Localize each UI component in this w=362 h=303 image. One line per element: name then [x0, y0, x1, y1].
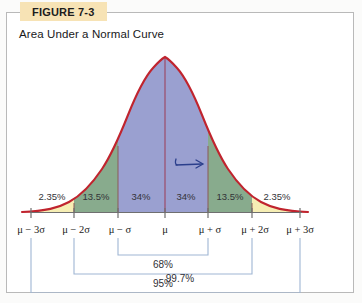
- x-tick-label-minus-1-sigma: μ − σ: [109, 224, 132, 235]
- percent-label-right-outer-tail: 2.35%: [264, 191, 291, 202]
- percent-label-left-center: 34%: [131, 191, 151, 202]
- x-tick-label-plus-2-sigma: μ + 2σ: [241, 224, 269, 235]
- figure-banner: FIGURE 7-3: [20, 2, 107, 21]
- bracket-label-one-sigma: 68%: [153, 259, 173, 270]
- x-tick-label-plus-1-sigma: μ + σ: [199, 224, 222, 235]
- x-tick-label-mu: μ: [162, 224, 168, 235]
- percent-label-right-center: 34%: [176, 191, 196, 202]
- x-tick-label-minus-3-sigma: μ − 3σ: [17, 224, 45, 235]
- figure-number-label: FIGURE 7-3: [32, 6, 95, 18]
- percent-label-left-middle: 13.5%: [83, 191, 110, 202]
- bracket-label-three-sigma: 99.7%: [6, 273, 354, 284]
- x-axis-tick-labels: μ − 3σ μ − 2σ μ − σ μ μ + σ μ + 2σ μ + 3…: [17, 224, 314, 235]
- banner-rule: [118, 12, 134, 13]
- percent-label-right-middle: 13.5%: [217, 191, 244, 202]
- percent-label-left-outer-tail: 2.35%: [39, 191, 66, 202]
- figure-root: FIGURE 7-3 Area Under a Normal Curve: [0, 0, 362, 303]
- plot-area: 2.35% 13.5% 34% 34% 13.5% 2.35% μ − 3σ μ…: [6, 12, 354, 293]
- bracket-one-sigma: [118, 238, 208, 255]
- normal-curve-chart: 2.35% 13.5% 34% 34% 13.5% 2.35% μ − 3σ μ…: [6, 12, 354, 293]
- x-tick-label-plus-3-sigma: μ + 3σ: [286, 224, 314, 235]
- x-tick-label-minus-2-sigma: μ − 2σ: [62, 224, 90, 235]
